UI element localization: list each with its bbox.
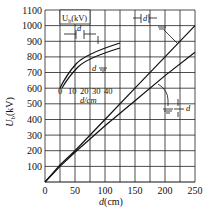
inset-d-label-1: d [77,23,82,33]
grid [45,10,195,182]
inset-xtick-40: 40 [104,86,113,96]
svg-text:250: 250 [188,185,203,196]
svg-text:50: 50 [70,185,80,196]
svg-text:900: 900 [27,36,42,47]
y-tick-labels: 1100 1000 900 800 700 600 500 400 300 20… [22,5,42,172]
y-axis-label: Ub(kV) [4,97,17,127]
svg-text:400: 400 [27,114,42,125]
inset-d-label-2: d [92,63,97,73]
rod-rod-d-label: d [143,13,148,23]
svg-text:0: 0 [43,185,48,196]
svg-text:200: 200 [158,185,173,196]
svg-text:600: 600 [27,83,42,94]
svg-text:100: 100 [27,161,42,172]
rod-rod-annotation [133,14,178,44]
svg-text:800: 800 [27,51,42,62]
inset-xlabel: d/cm [80,95,97,105]
svg-text:100: 100 [98,185,113,196]
svg-text:200: 200 [27,145,42,156]
inset-ylabel: Ub(kV) [62,13,87,24]
chart: Ub(kV) d d 0 10 20 30 40 d/cm d d 1100 1… [0,0,211,214]
svg-text:300: 300 [27,130,42,141]
svg-text:150: 150 [128,185,143,196]
svg-text:1000: 1000 [22,20,42,31]
rod-plane-d-label: d [186,103,191,113]
inset-rod-icon [64,30,107,72]
inset-xtick-10: 10 [68,86,77,96]
svg-text:700: 700 [27,67,42,78]
x-axis-label: d(cm) [99,196,123,208]
svg-text:500: 500 [27,98,42,109]
svg-text:1100: 1100 [22,5,42,16]
x-tick-labels: 0 50 100 150 200 250 [43,185,203,196]
